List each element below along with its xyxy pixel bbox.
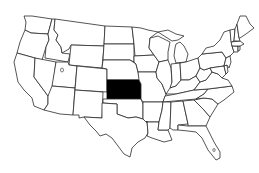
- state-colorado: [75, 66, 107, 92]
- state-north-dakota: [104, 26, 134, 44]
- us-states-map: [0, 0, 259, 173]
- state-kansas: [107, 80, 141, 99]
- state-florida: [178, 125, 220, 160]
- state-utah: [52, 62, 77, 88]
- great-salt-lake: [61, 68, 64, 72]
- state-nebraska: [102, 60, 140, 80]
- lake-okeechobee: [213, 149, 215, 152]
- state-maine: [237, 16, 254, 38]
- state-rhode-island: [238, 46, 240, 51]
- state-new-mexico: [73, 90, 103, 118]
- state-wyoming: [69, 45, 104, 68]
- state-south-dakota: [103, 44, 134, 62]
- state-iowa: [134, 55, 159, 72]
